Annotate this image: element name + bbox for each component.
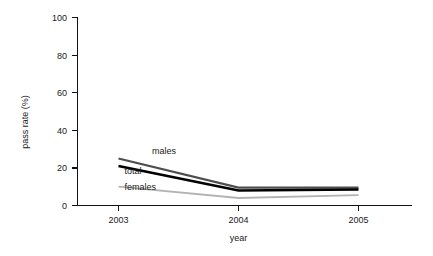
series-label-males: males xyxy=(152,146,177,156)
y-tick-label-0: 0 xyxy=(62,201,67,211)
x-tick-label-2005: 2005 xyxy=(348,215,368,225)
y-tick-label-100: 100 xyxy=(52,13,67,23)
y-tick-label-20: 20 xyxy=(57,163,67,173)
series-label-total: total xyxy=(125,166,142,176)
y-tick-label-60: 60 xyxy=(57,88,67,98)
y-tick-label-80: 80 xyxy=(57,51,67,61)
x-axis-title: year xyxy=(230,233,248,243)
x-tick-label-2004: 2004 xyxy=(228,215,248,225)
chart-figure: 100 80 60 40 20 0 pass rate (%) 2003 200… xyxy=(0,0,433,256)
y-tick-label-40: 40 xyxy=(57,126,67,136)
x-tick-label-2003: 2003 xyxy=(108,215,128,225)
line-chart: 100 80 60 40 20 0 pass rate (%) 2003 200… xyxy=(0,0,433,256)
y-axis-title: pass rate (%) xyxy=(20,95,30,149)
series-label-females: females xyxy=(125,182,157,192)
